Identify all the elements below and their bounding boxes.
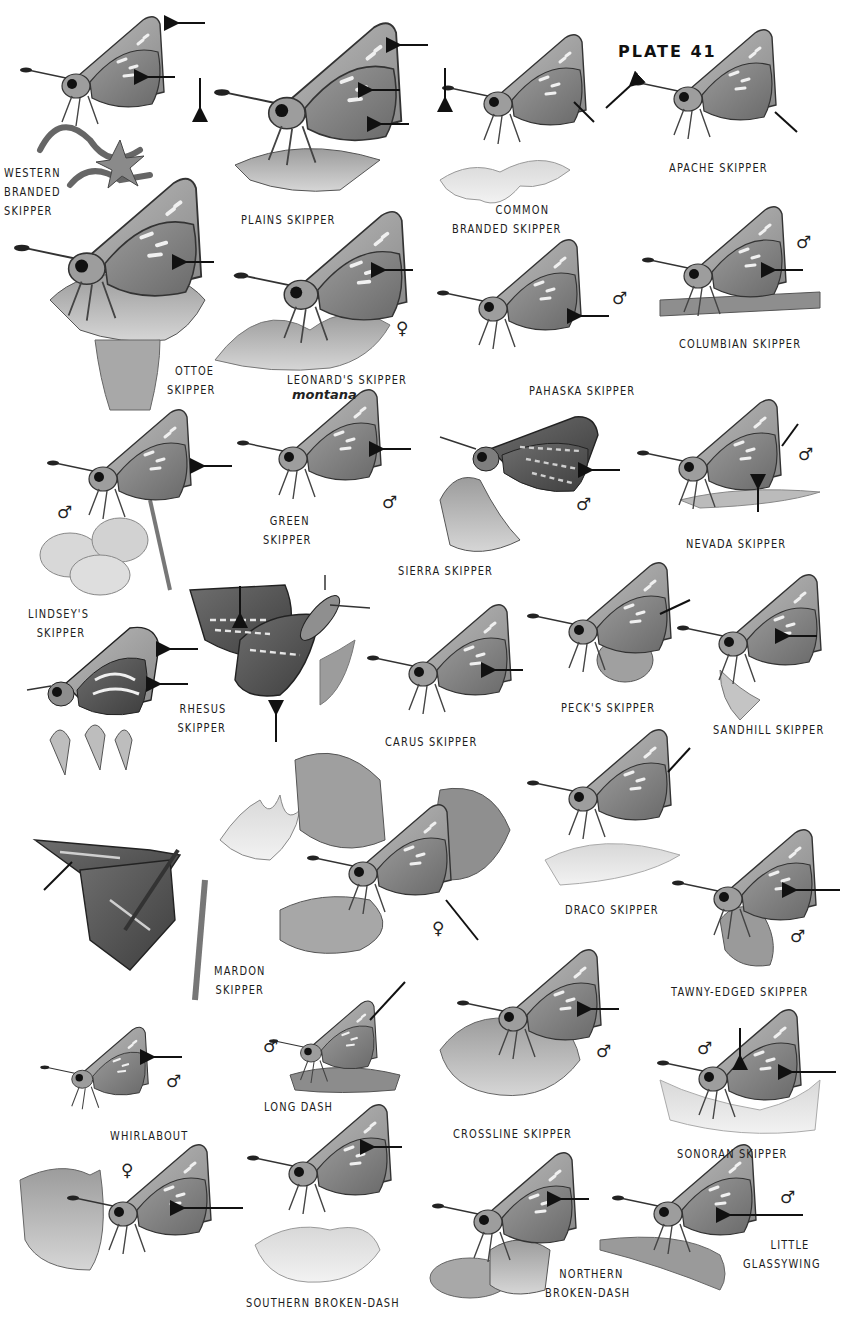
label-southern-broken-dash: SOUTHERN BROKEN-DASH	[246, 1294, 400, 1313]
label-rhesus: RHESUS SKIPPER	[177, 700, 227, 738]
sierra-illustration	[440, 417, 620, 552]
male-symbol-columbian: ♂	[796, 234, 811, 251]
draco-illustration	[527, 730, 690, 885]
columbian-illustration	[642, 207, 820, 316]
label-green: GREEN SKIPPER	[263, 512, 312, 550]
rhesus-illustration	[27, 627, 198, 775]
common-branded-illustration	[440, 35, 594, 203]
carus-illustration	[367, 605, 523, 714]
label-mardon: MARDON SKIPPER	[214, 962, 266, 1000]
male-symbol-long-dash: ♂	[263, 1038, 278, 1055]
plains-illustration	[200, 23, 428, 191]
field-guide-plate: PLATE 41 WESTERN BRANDED SKIPPER PLAINS …	[0, 0, 856, 1342]
sonoran-illustration	[657, 1010, 836, 1134]
female-symbol-mardon: ♀	[432, 920, 444, 937]
label-plains: PLAINS SKIPPER	[241, 211, 336, 230]
sandhill-illustration	[677, 575, 821, 720]
label-common-branded: COMMON BRANDED SKIPPER	[452, 201, 562, 239]
label-apache: APACHE SKIPPER	[669, 159, 768, 178]
label-ottoe: OTTOE SKIPPER	[167, 362, 216, 400]
male-symbol-sonoran: ♂	[697, 1040, 712, 1057]
female-symbol-southern-broken-dash: ♀	[121, 1162, 133, 1179]
plate-title: PLATE 41	[618, 42, 717, 61]
label-leonards-subspecies: montana	[292, 387, 357, 402]
label-northern-broken-dash: NORTHERN BROKEN-DASH	[545, 1265, 630, 1303]
male-symbol-lindseys: ♂	[57, 504, 72, 521]
label-sierra: SIERRA SKIPPER	[398, 562, 493, 581]
label-sonoran: SONORAN SKIPPER	[677, 1145, 788, 1164]
pecks-illustration	[527, 563, 690, 682]
female-symbol-leonards: ♀	[396, 320, 408, 337]
label-pahaska: PAHASKA SKIPPER	[529, 382, 635, 401]
tawny-edged-illustration	[672, 830, 840, 966]
label-columbian: COLUMBIAN SKIPPER	[679, 335, 801, 354]
label-whirlabout: WHIRLABOUT	[110, 1127, 188, 1146]
label-long-dash: LONG DASH	[264, 1098, 333, 1117]
male-symbol-pahaska: ♂	[612, 290, 627, 307]
label-lindseys: LINDSEY'S SKIPPER	[28, 605, 89, 643]
label-draco: DRACO SKIPPER	[565, 901, 659, 920]
label-crossline: CROSSLINE SKIPPER	[453, 1125, 572, 1144]
male-symbol-little-glassywing: ♂	[780, 1189, 795, 1206]
male-symbol-nevada: ♂	[798, 446, 813, 463]
male-symbol-green: ♂	[382, 494, 397, 511]
southern-broken-dash-illustration	[247, 1105, 402, 1282]
label-sandhill: SANDHILL SKIPPER	[713, 721, 824, 740]
long-dash-illustration	[269, 982, 405, 1093]
male-symbol-whirlabout: ♂	[166, 1073, 181, 1090]
label-western-branded: WESTERN BRANDED SKIPPER	[4, 164, 61, 221]
label-carus: CARUS SKIPPER	[385, 733, 477, 752]
whirlabout-illustration	[40, 1027, 182, 1109]
green-illustration	[237, 390, 411, 499]
male-symbol-crossline: ♂	[596, 1043, 611, 1060]
male-symbol-sierra: ♂	[576, 496, 591, 513]
label-tawny-edged: TAWNY-EDGED SKIPPER	[671, 983, 809, 1002]
crossline-illustration	[440, 950, 619, 1096]
pahaska-illustration	[437, 240, 609, 349]
label-little-glassywing: LITTLE GLASSYWING	[743, 1236, 821, 1274]
label-nevada: NEVADA SKIPPER	[686, 535, 786, 554]
nevada-illustration	[637, 400, 820, 512]
leonards-illustration	[215, 212, 413, 370]
label-pecks: PECK'S SKIPPER	[561, 699, 655, 718]
male-symbol-tawny-edged: ♂	[790, 928, 805, 945]
mardon-female-illustration	[280, 753, 510, 953]
western-branded-illustration	[20, 17, 205, 188]
